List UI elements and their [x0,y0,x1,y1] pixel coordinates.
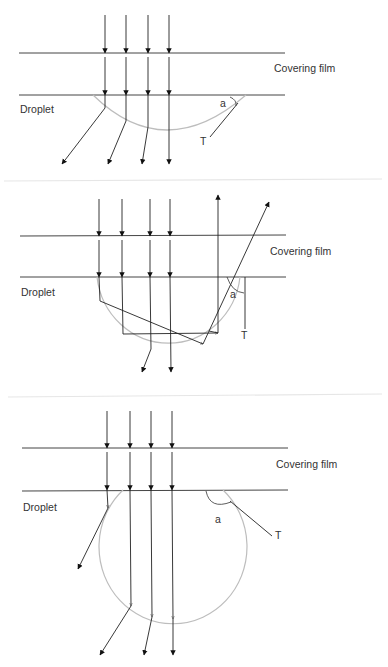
panel-separator [4,179,382,181]
panel-1: Covering film Droplet a T [19,15,336,164]
angle-label: a [220,97,226,109]
incident-rays [99,199,170,277]
reflected-rays [99,195,269,372]
covering-film-label: Covering film [270,245,332,257]
covering-film-label: Covering film [274,62,336,74]
film-bottom-line [22,490,288,491]
panel-2: Covering film Droplet a T [20,195,332,372]
contact-angle-arc [206,491,231,504]
incident-rays [105,15,169,95]
droplet-label: Droplet [20,103,54,115]
panel-3: Covering film Droplet a T [22,411,338,655]
refracted-rays [62,95,169,164]
droplet-label: Droplet [21,286,55,298]
tangent-label: T [275,529,282,541]
droplet-label: Droplet [23,501,57,513]
covering-film-label: Covering film [276,458,338,470]
angle-label: a [215,513,221,525]
tangent-line [230,501,272,536]
panel-separator [8,394,382,397]
droplet-light-diagram: Covering film Droplet a T [0,0,388,667]
film-top-line [20,235,286,236]
refracted-rays [78,490,173,655]
angle-label: a [230,288,236,300]
tangent-label: T [241,329,248,341]
incident-rays [107,411,172,490]
tangent-label: T [200,135,207,147]
